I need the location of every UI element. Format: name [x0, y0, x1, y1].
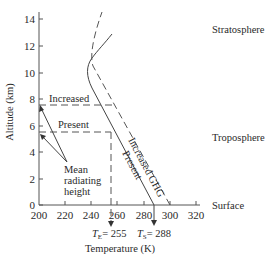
- te-arrow-icon: [108, 221, 114, 227]
- ts-arrow-icon: [151, 220, 157, 226]
- te-annotation: TE= 255: [92, 228, 126, 241]
- svg-text:320: 320: [188, 209, 205, 221]
- svg-text:200: 200: [31, 209, 48, 221]
- svg-text:240: 240: [83, 209, 100, 221]
- arrow-head-increased-icon: [39, 105, 44, 112]
- mean-label: Mean: [64, 164, 89, 175]
- stratosphere-label: Stratosphere: [212, 24, 265, 35]
- height-label: height: [64, 186, 90, 197]
- y-axis-label: Altitude (km): [4, 83, 16, 141]
- arrow-to-increased: [41, 108, 67, 162]
- svg-text:220: 220: [57, 209, 74, 221]
- ts-annotation: TS= 288: [137, 228, 171, 241]
- svg-text:8: 8: [30, 93, 36, 105]
- x-axis-label: Temperature (K): [85, 243, 156, 255]
- svg-text:4: 4: [30, 146, 36, 158]
- svg-text:2: 2: [30, 173, 36, 185]
- surface-label: Surface: [212, 200, 244, 211]
- x-tick-labels: 200 220 240 260 280 300 320: [31, 209, 205, 221]
- svg-text:280: 280: [136, 209, 153, 221]
- svg-text:14: 14: [24, 13, 36, 25]
- svg-text:300: 300: [162, 209, 179, 221]
- radiating-label: radiating: [64, 175, 102, 186]
- altitude-temperature-diagram: 0 2 4 6 8 10 12 14 200 220 240 260 280 3…: [0, 0, 278, 267]
- svg-text:6: 6: [30, 120, 36, 132]
- svg-text:12: 12: [24, 40, 35, 52]
- present-label: Present: [58, 119, 89, 130]
- arrow-to-present: [42, 136, 67, 162]
- y-tick-labels: 0 2 4 6 8 10 12 14: [24, 13, 36, 211]
- svg-text:10: 10: [24, 67, 36, 79]
- increased-label: Increased: [49, 93, 90, 104]
- x-ticks: [65, 201, 196, 205]
- troposphere-label: Troposphere: [212, 132, 265, 143]
